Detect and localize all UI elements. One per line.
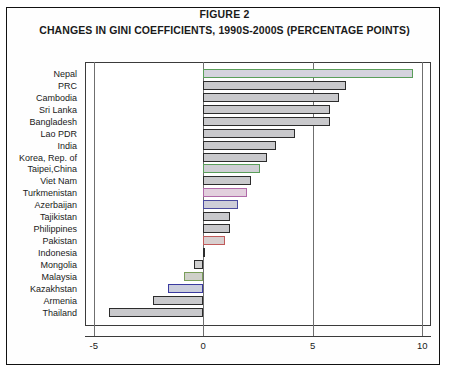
category-label: Indonesia <box>0 249 81 258</box>
x-tick-label: 5 <box>310 340 315 351</box>
bar-azerbaijan <box>203 200 238 209</box>
category-label: Turkmenistan <box>0 189 81 198</box>
category-label: Bangladesh <box>0 118 81 127</box>
category-label: Pakistan <box>0 237 81 246</box>
x-tick-5 <box>313 326 314 336</box>
bar-taipei-china <box>203 164 260 173</box>
category-label: Kazakhstan <box>0 285 81 294</box>
category-label: Viet Nam <box>0 177 81 186</box>
bar-mongolia <box>194 260 203 269</box>
x-tick-label: -5 <box>90 340 98 351</box>
bar-thailand <box>109 308 203 317</box>
category-label: Armenia <box>0 297 81 306</box>
x-tick-0 <box>203 326 204 336</box>
category-label: India <box>0 142 81 151</box>
bar-indonesia <box>203 248 205 257</box>
category-label: Malaysia <box>0 273 81 282</box>
category-label: Philippines <box>0 225 81 234</box>
bar-tajikistan <box>203 212 229 221</box>
bar-kazakhstan <box>168 284 203 293</box>
bar-lao-pdr <box>203 129 295 138</box>
bar-nepal <box>203 69 413 78</box>
category-label: Lao PDR <box>0 130 81 139</box>
category-label: Azerbaijan <box>0 201 81 210</box>
chart-container: -50510 NepalPRCCambodiaSri LankaBanglade… <box>0 0 449 377</box>
x-tick-label: 0 <box>201 340 206 351</box>
bar-cambodia <box>203 93 339 102</box>
category-label: PRC <box>0 82 81 91</box>
category-label: Cambodia <box>0 94 81 103</box>
category-label: Nepal <box>0 70 81 79</box>
category-label: Taipei,China <box>0 165 81 174</box>
x-tick--5 <box>94 326 95 336</box>
bar-prc <box>203 81 345 90</box>
bar-armenia <box>153 296 203 305</box>
bar-philippines <box>203 224 229 233</box>
bar-malaysia <box>184 272 204 281</box>
bar-viet-nam <box>203 176 251 185</box>
category-label: Mongolia <box>0 261 81 270</box>
category-label: Thailand <box>0 309 81 318</box>
bar-sri-lanka <box>203 105 330 114</box>
bar-turkmenistan <box>203 188 247 197</box>
bar-bangladesh <box>203 117 330 126</box>
bar-india <box>203 141 275 150</box>
bar-korea-rep-of <box>203 153 267 162</box>
category-label: Tajikistan <box>0 213 81 222</box>
x-tick-label: 10 <box>417 340 428 351</box>
bar-series <box>85 62 431 326</box>
bar-pakistan <box>203 236 225 245</box>
x-tick-10 <box>422 326 423 336</box>
category-label: Sri Lanka <box>0 106 81 115</box>
category-label: Korea, Rep. of <box>0 154 81 163</box>
x-axis-line <box>85 336 431 337</box>
